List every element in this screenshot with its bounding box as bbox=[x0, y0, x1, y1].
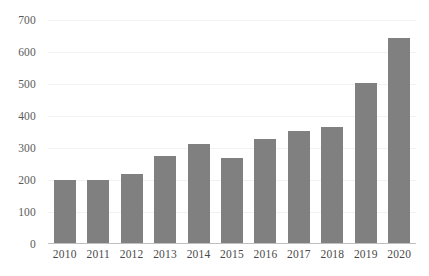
y-axis-tick-labels: 0100200300400500600700 bbox=[0, 20, 44, 244]
bar-slot bbox=[115, 20, 148, 244]
y-axis-tick-label: 100 bbox=[18, 206, 36, 218]
x-axis-tick-label: 2018 bbox=[316, 248, 349, 260]
bar bbox=[154, 156, 176, 244]
bar-slot bbox=[249, 20, 282, 244]
y-axis-tick-label: 0 bbox=[30, 238, 36, 250]
bar-slot bbox=[383, 20, 416, 244]
bar bbox=[121, 174, 143, 244]
y-axis-tick-label: 700 bbox=[18, 14, 36, 26]
y-axis-tick-label: 400 bbox=[18, 110, 36, 122]
bar-slot bbox=[215, 20, 248, 244]
bar bbox=[54, 180, 76, 244]
x-axis-tick-label: 2013 bbox=[148, 248, 181, 260]
x-axis-tick-label: 2012 bbox=[115, 248, 148, 260]
bar bbox=[188, 144, 210, 244]
x-axis-tick-label: 2017 bbox=[282, 248, 315, 260]
x-axis-tick-labels: 2010201120122013201420152016201720182019… bbox=[48, 248, 416, 268]
bar bbox=[87, 180, 109, 244]
bar-slot bbox=[349, 20, 382, 244]
y-axis-tick-label: 500 bbox=[18, 78, 36, 90]
x-axis-tick-label: 2016 bbox=[249, 248, 282, 260]
y-axis-tick-label: 600 bbox=[18, 46, 36, 58]
bar-slot bbox=[316, 20, 349, 244]
x-axis-tick-label: 2014 bbox=[182, 248, 215, 260]
x-axis-line bbox=[48, 243, 416, 244]
x-axis-tick-label: 2015 bbox=[215, 248, 248, 260]
x-axis-tick-label: 2019 bbox=[349, 248, 382, 260]
bar bbox=[221, 158, 243, 244]
bar-slot bbox=[282, 20, 315, 244]
bar bbox=[321, 127, 343, 244]
plot-area bbox=[48, 20, 416, 244]
x-axis-tick-label: 2011 bbox=[81, 248, 114, 260]
bar bbox=[288, 131, 310, 244]
bar bbox=[388, 38, 410, 244]
bar-slot bbox=[182, 20, 215, 244]
bar bbox=[254, 139, 276, 244]
bar-slot bbox=[48, 20, 81, 244]
bar-slot bbox=[81, 20, 114, 244]
x-axis-tick-label: 2020 bbox=[383, 248, 416, 260]
bar-chart: 0100200300400500600700 20102011201220132… bbox=[0, 0, 429, 276]
y-axis-tick-label: 200 bbox=[18, 174, 36, 186]
x-axis-tick-label: 2010 bbox=[48, 248, 81, 260]
y-axis-tick-label: 300 bbox=[18, 142, 36, 154]
bar-series bbox=[48, 20, 416, 244]
bar-slot bbox=[148, 20, 181, 244]
bar bbox=[355, 83, 377, 244]
